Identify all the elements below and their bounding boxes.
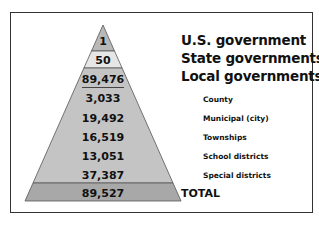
label-local-governments: Local governments: [181, 68, 319, 84]
label-state-governments: State governments: [181, 50, 319, 66]
label-us-government: U.S. government: [181, 32, 306, 48]
value-special: 37,387: [82, 169, 124, 182]
label-special-districts: Special districts: [203, 171, 271, 180]
value-total: 89,527: [82, 187, 124, 200]
value-municipal: 19,492: [82, 112, 124, 125]
label-municipal: Municipal (city): [203, 114, 269, 123]
value-townships: 16,519: [82, 131, 124, 144]
label-total: TOTAL: [181, 187, 220, 200]
value-us: 1: [99, 35, 107, 48]
label-county: County: [203, 95, 233, 104]
label-townships: Townships: [203, 133, 247, 142]
value-state: 50: [95, 54, 111, 67]
value-school: 13,051: [82, 150, 124, 163]
label-school-districts: School districts: [203, 152, 268, 161]
value-county: 3,033: [86, 92, 121, 105]
value-local: 89,476: [82, 73, 125, 86]
